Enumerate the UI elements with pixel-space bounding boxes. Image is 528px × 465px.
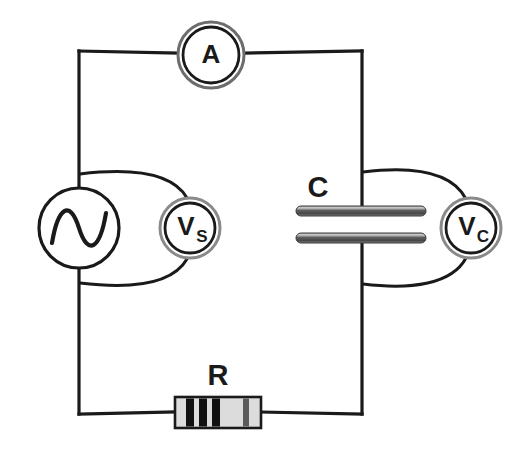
- circuit-diagram-canvas: V S A C V C: [0, 0, 528, 465]
- ac-voltage-source: [39, 188, 119, 268]
- voltmeter-capacitor-label: V: [458, 211, 476, 241]
- wire-vc-top: [363, 170, 466, 199]
- ammeter-label: A: [202, 39, 221, 69]
- voltmeter-source-subscript: S: [196, 227, 207, 246]
- voltmeter-capacitor: V C: [441, 198, 501, 258]
- voltmeter-source-label: V: [177, 211, 195, 241]
- capacitor-bottom-plate: [296, 233, 426, 243]
- resistor-band-4: [243, 399, 249, 427]
- resistor-label: R: [208, 359, 229, 391]
- resistor-band-1: [186, 399, 194, 427]
- voltmeter-source: V S: [160, 198, 220, 258]
- wire-vc-bottom: [363, 258, 466, 286]
- voltmeter-capacitor-subscript: C: [477, 227, 489, 246]
- wire-top-left: [79, 51, 178, 53]
- wire-bottom-left: [79, 412, 175, 414]
- resistor-band-3: [212, 399, 220, 427]
- capacitor-label: C: [308, 171, 329, 203]
- capacitor-top-plate: [296, 206, 426, 216]
- circuit-schematic: V S A C V C: [0, 0, 528, 465]
- resistor: R: [175, 359, 261, 428]
- resistor-band-2: [199, 399, 207, 427]
- wire-top-right: [244, 51, 362, 53]
- wire-bottom-right: [261, 412, 362, 414]
- ammeter: A: [178, 22, 244, 88]
